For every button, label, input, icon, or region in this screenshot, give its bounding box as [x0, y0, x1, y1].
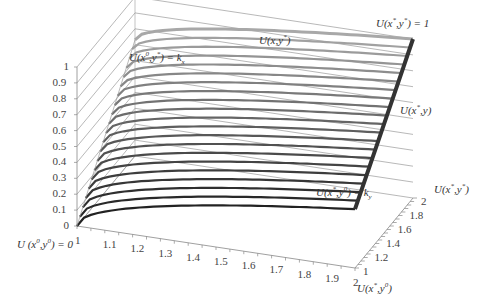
y-tick-label: 1.2 — [375, 252, 389, 263]
x-tick-label: 1.2 — [131, 243, 145, 254]
z-tick-label: 0.6 — [53, 125, 67, 136]
x-tick-label: 1.7 — [270, 264, 284, 275]
x-tick-label: 1.4 — [186, 252, 200, 263]
y-tick-label: 2 — [421, 196, 427, 207]
z-tick-label: 0.4 — [53, 156, 67, 167]
y-tick-label: 1 — [363, 266, 369, 277]
x-tick-label: 1.8 — [297, 269, 311, 280]
y-tick-label: 1.8 — [409, 210, 423, 221]
z-tick-label: 0.7 — [53, 109, 67, 120]
x-tick-label: 1.3 — [158, 248, 172, 259]
z-tick-label: 0.5 — [53, 141, 67, 152]
annotation-u-xstar-ystar-1: U(x*,y*) = 1 — [376, 17, 429, 29]
x-tick-label: 1.1 — [103, 239, 117, 250]
x-tick-label: 1 — [75, 235, 81, 246]
x-tick-label: 1.9 — [325, 273, 339, 284]
annotation-u-x0-y0-0: U (x0,y0) = 0 — [17, 238, 73, 250]
z-tick-label: 0.2 — [53, 188, 67, 199]
annotation-u-xstar-ystar-axis: U(x*,y*) — [434, 183, 469, 195]
annotation-u-xstar-y: U(x*,y) — [400, 104, 431, 116]
annotation-u-x-ystar: U(x,y*) — [259, 34, 290, 46]
z-tick-label: 0.9 — [53, 77, 67, 88]
z-tick-label: 0 — [64, 220, 70, 231]
z-tick-label: 0.8 — [53, 93, 67, 104]
annotation-u-xstar-y0-ky: U(x*,y0) = ky — [316, 186, 372, 201]
x-tick-label: 1.6 — [242, 260, 256, 271]
z-tick-label: 1 — [64, 61, 70, 72]
y-tick-label: 1.4 — [386, 238, 400, 249]
z-tick-label: 0.3 — [53, 172, 67, 183]
annotation-u-xstar-y0-axis: U(x*,y0) — [357, 282, 392, 294]
z-tick-label: 0.1 — [53, 204, 67, 215]
x-tick-label: 1.5 — [214, 256, 228, 267]
annotation-u-x0-ystar: U(x0,y*) = kx — [129, 51, 185, 66]
y-tick-label: 1.6 — [398, 224, 412, 235]
